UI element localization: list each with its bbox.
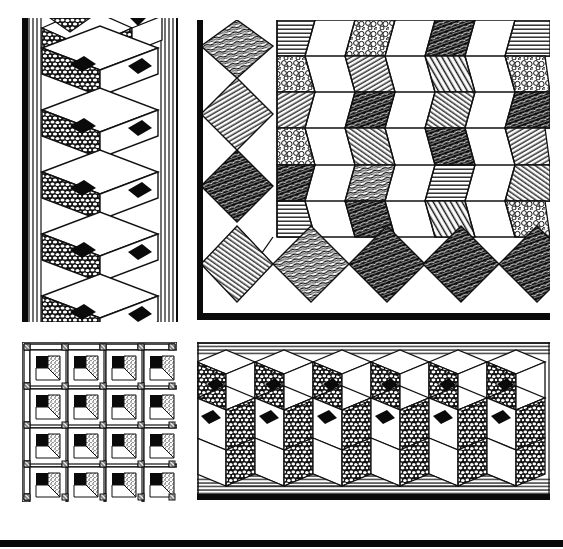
- grid-tile-illustration: [22, 342, 177, 502]
- tumbling-block-illustration: [197, 342, 553, 504]
- panel-tall-left: [20, 18, 180, 322]
- figure-caption: [0, 0, 563, 8]
- bottom-rule: [0, 540, 563, 547]
- panel-wide-band: [197, 342, 553, 504]
- herringbone-illustration: [197, 20, 550, 320]
- panel-large-right: [197, 20, 550, 320]
- cube-strip-illustration: [20, 18, 180, 322]
- panel-small-grid: [22, 342, 177, 502]
